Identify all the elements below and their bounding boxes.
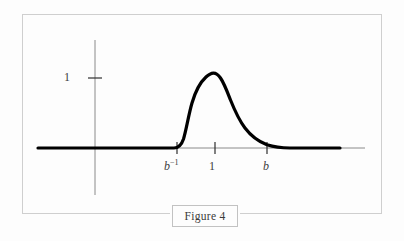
x-axis-label-b-inverse: b−1 — [164, 159, 179, 172]
x-axis-label-one: 1 — [209, 160, 215, 172]
figure-container: b−1 1 b 1 Figure 4 — [0, 0, 404, 241]
x-axis-label-b: b — [263, 160, 269, 172]
y-axis-label-one: 1 — [64, 71, 70, 83]
figure-caption-text: Figure 4 — [184, 210, 225, 222]
figure-caption-box: Figure 4 — [172, 205, 238, 227]
bump-function-curve — [38, 73, 340, 148]
